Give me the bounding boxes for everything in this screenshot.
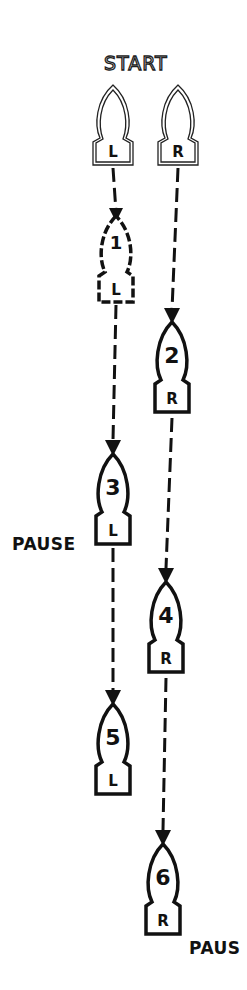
- step-6-number: 6: [148, 865, 178, 890]
- path-left-start-1: [113, 168, 116, 212]
- step-2-foot-letter: R: [157, 390, 187, 408]
- path-right-2-4: [166, 418, 172, 568]
- step-3-number: 3: [98, 475, 128, 500]
- path-right-start-2: [172, 168, 178, 310]
- start-right-foot-letter: R: [163, 143, 193, 161]
- step-2-number: 2: [157, 343, 187, 368]
- path-right-4-6: [163, 678, 166, 830]
- step-6-foot-letter: R: [148, 912, 178, 930]
- step-5-foot-letter: L: [98, 772, 128, 790]
- pause-label-right: PAUS: [189, 938, 241, 958]
- step-4-number: 4: [151, 603, 181, 628]
- start-left-foot-letter: L: [98, 143, 128, 161]
- start-label: START: [104, 52, 168, 74]
- step-1-number: 1: [101, 232, 131, 253]
- step-1-foot-letter: L: [101, 281, 131, 299]
- pause-label-left: PAUSE: [12, 534, 76, 554]
- path-left-1-3: [113, 305, 116, 440]
- step-3-foot-letter: L: [98, 522, 128, 540]
- step-shoes: [96, 216, 189, 934]
- step-5-number: 5: [98, 725, 128, 750]
- step-4-foot-letter: R: [151, 650, 181, 668]
